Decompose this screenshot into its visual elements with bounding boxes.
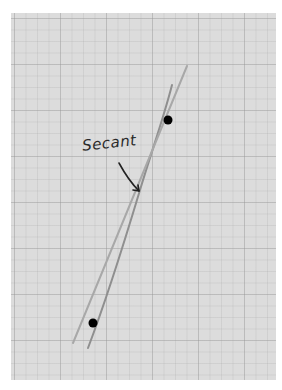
curve: [88, 85, 172, 348]
upper-point: [164, 116, 173, 125]
secant-diagram: [0, 0, 282, 390]
lower-point: [89, 319, 98, 328]
secant-line: [73, 66, 187, 343]
arrow-icon: [119, 163, 139, 191]
